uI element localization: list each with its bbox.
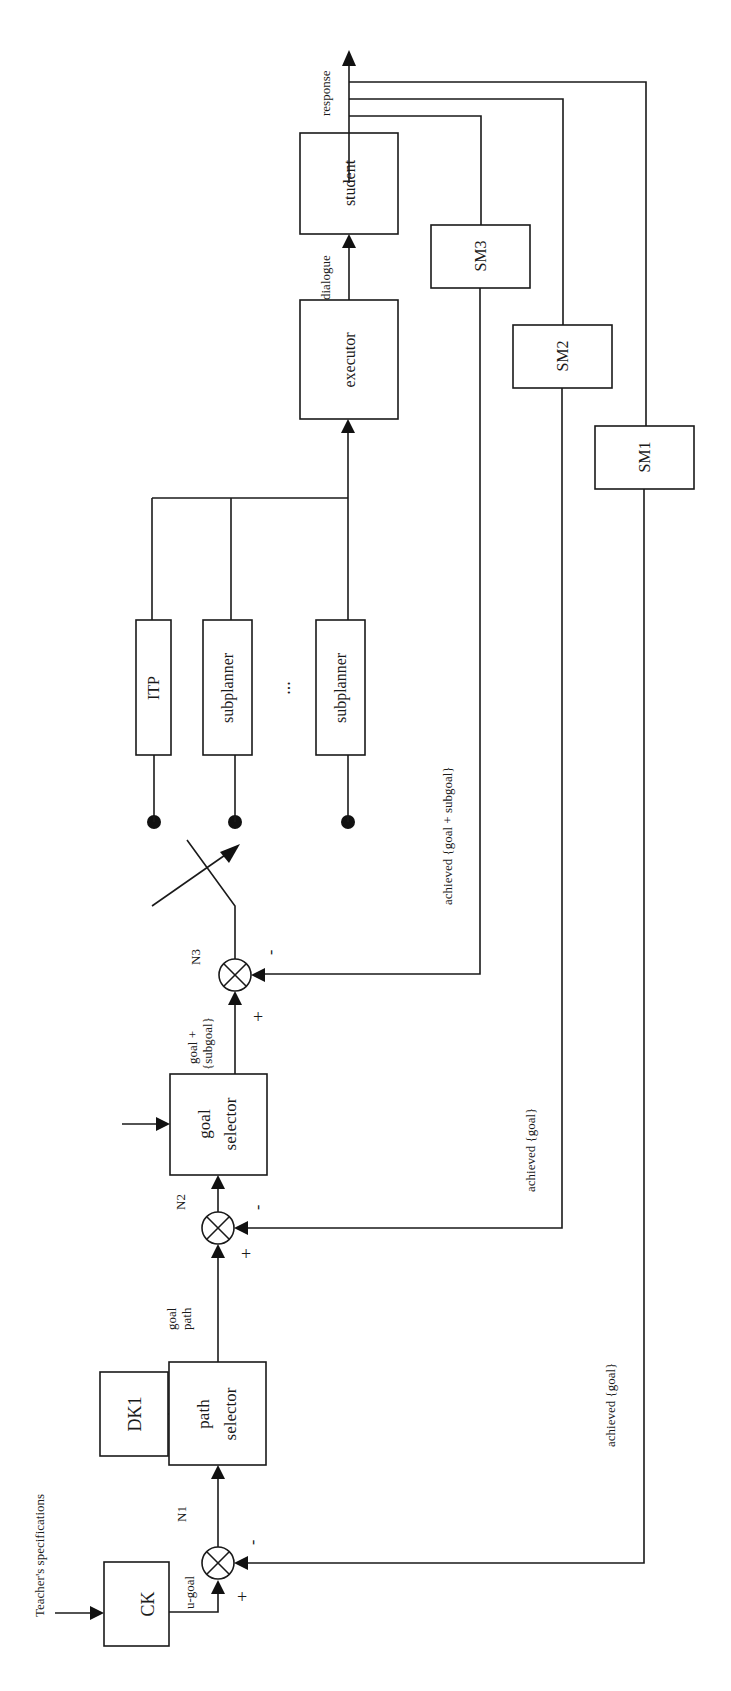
arrow-icon <box>156 1117 170 1131</box>
ck-label: CK <box>138 1591 158 1616</box>
goal-selector-label-1: goal <box>195 1109 214 1139</box>
arrow-icon <box>234 1221 248 1235</box>
goal-selector-label-2: selector <box>221 1097 240 1150</box>
n1-minus-sign: - <box>244 1540 261 1545</box>
n1-summing-junction <box>202 1547 234 1579</box>
n2-minus-sign: - <box>249 1205 266 1210</box>
arrow-icon <box>211 1175 225 1189</box>
n2-label: N2 <box>173 1194 188 1210</box>
arrow-icon <box>228 991 242 1005</box>
sm1-feedback-line <box>241 489 644 1563</box>
response-label: response <box>318 70 333 116</box>
fb-n1-label: achieved {goal} <box>603 1363 618 1447</box>
path-selector-label-2: selector <box>221 1387 240 1440</box>
subplanner-1-label: subplanner <box>219 652 237 723</box>
itp-label: ITP <box>145 676 162 700</box>
ck-block[interactable] <box>104 1562 169 1646</box>
goal-subgoal-label-1: goal + <box>185 1031 200 1064</box>
n1-label: N1 <box>174 1506 189 1522</box>
n3-label: N3 <box>188 949 203 965</box>
arrow-icon <box>211 1580 225 1594</box>
executor-label: executor <box>341 332 358 388</box>
n3-plus-sign: + <box>253 1007 263 1027</box>
planner-switch[interactable] <box>152 840 240 959</box>
arrow-icon <box>251 968 265 982</box>
arrow-icon <box>342 50 356 66</box>
n3-summing-junction <box>219 959 251 991</box>
dialogue-label: dialogue <box>318 255 333 300</box>
n3-minus-sign: - <box>262 950 279 955</box>
n2-summing-junction <box>202 1212 234 1244</box>
u-goal-label: u-goal <box>182 1575 197 1609</box>
path-selector-label-1: path <box>194 1399 213 1429</box>
arrow-icon <box>234 1556 248 1570</box>
goal-path-label-2: path <box>179 1307 194 1330</box>
n1-plus-sign: + <box>237 1587 247 1607</box>
control-loop-diagram: Teacher's specifications CK u-goal + N1 … <box>0 0 731 1691</box>
fb-n3-label: achieved {goal + subgoal} <box>440 766 455 905</box>
more-subplanners-ellipsis: ... <box>274 681 294 695</box>
teacher-spec-label-1: Teacher's specifications <box>32 1494 47 1617</box>
arrow-icon <box>341 419 355 433</box>
arrow-icon <box>211 1465 225 1479</box>
sm2-label: SM2 <box>554 340 571 371</box>
dk1-label: DK1 <box>125 1397 145 1432</box>
arrow-icon <box>90 1606 104 1620</box>
goal-selector-block[interactable] <box>170 1074 267 1175</box>
arrow-icon <box>211 1244 225 1258</box>
goal-path-label-1: goal <box>164 1307 179 1330</box>
path-selector-block[interactable] <box>169 1362 266 1465</box>
sm3-label: SM3 <box>472 240 489 271</box>
sm1-label: SM1 <box>636 441 653 472</box>
sm2-feedback-line <box>241 388 562 1228</box>
n2-plus-sign: + <box>241 1244 251 1264</box>
fb-n2-label: achieved {goal} <box>523 1108 538 1192</box>
goal-subgoal-label-2: {subgoal} <box>200 1017 215 1070</box>
arrow-icon <box>342 234 356 248</box>
subplanner-2-label: subplanner <box>332 652 350 723</box>
